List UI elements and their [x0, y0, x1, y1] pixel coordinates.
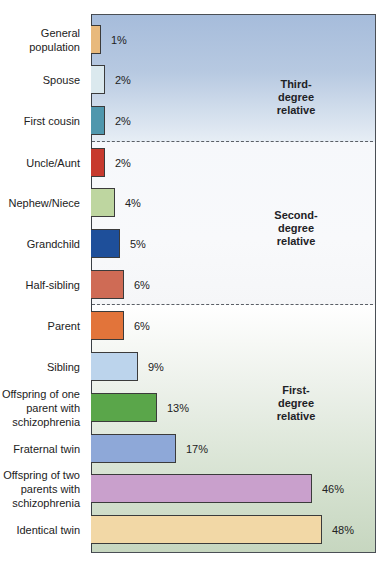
bar: [91, 393, 157, 422]
zone-label-line: degree: [241, 397, 351, 410]
category-label-line: Offspring of two: [0, 468, 80, 482]
value-label: 2%: [115, 156, 131, 170]
category-label: Offspring of oneparent withschizophrenia: [0, 387, 80, 429]
bar: [91, 106, 105, 135]
schizophrenia-risk-chart: Third- degree relative Second- degree re…: [0, 0, 390, 564]
category-label: Nephew/Niece: [0, 196, 80, 210]
value-label: 1%: [111, 33, 127, 47]
category-label: Offspring of twoparents withschizophreni…: [0, 468, 80, 510]
category-label-line: Uncle/Aunt: [0, 156, 80, 170]
value-label: 5%: [130, 237, 146, 251]
bar: [91, 188, 115, 217]
zone-label-line: Second-: [241, 209, 351, 222]
bar: [91, 352, 138, 381]
category-label-line: First cousin: [0, 114, 80, 128]
category-label-line: population: [0, 40, 80, 54]
category-label-line: schizophrenia: [0, 496, 80, 510]
value-label: 17%: [186, 442, 208, 456]
category-label: Generalpopulation: [0, 26, 80, 54]
bar: [91, 311, 124, 340]
category-label-line: parent with: [0, 401, 80, 415]
bar: [91, 474, 312, 503]
bar: [91, 229, 120, 258]
category-label-line: Parent: [0, 319, 80, 333]
category-label-line: General: [0, 26, 80, 40]
zone-label-line: First-: [241, 384, 351, 397]
category-label: Uncle/Aunt: [0, 156, 80, 170]
zone-label-third-degree: Third- degree relative: [241, 78, 351, 117]
bar: [91, 65, 105, 94]
zone-label-line: Third-: [241, 78, 351, 91]
bar: [91, 148, 105, 177]
zone-label-first-degree: First- degree relative: [241, 384, 351, 423]
value-label: 2%: [115, 114, 131, 128]
category-label: Identical twin: [0, 523, 80, 537]
category-label: Parent: [0, 319, 80, 333]
value-label: 48%: [332, 523, 354, 537]
bar: [91, 270, 124, 299]
category-label-line: Fraternal twin: [0, 442, 80, 456]
category-label-line: schizophrenia: [0, 415, 80, 429]
category-label-line: Identical twin: [0, 523, 80, 537]
category-label: Half-sibling: [0, 278, 80, 292]
category-label: Grandchild: [0, 237, 80, 251]
value-label: 6%: [134, 278, 150, 292]
value-label: 4%: [125, 196, 141, 210]
zone-label-line: degree: [241, 222, 351, 235]
category-label-line: parents with: [0, 482, 80, 496]
category-label: Fraternal twin: [0, 442, 80, 456]
category-label: Spouse: [0, 73, 80, 87]
category-label-line: Grandchild: [0, 237, 80, 251]
zone-label-second-degree: Second- degree relative: [241, 209, 351, 248]
value-label: 13%: [167, 401, 189, 415]
zone-label-line: relative: [241, 104, 351, 117]
category-label-line: Sibling: [0, 360, 80, 374]
category-label-line: Half-sibling: [0, 278, 80, 292]
zone-label-line: degree: [241, 91, 351, 104]
value-label: 46%: [322, 482, 344, 496]
value-label: 6%: [134, 319, 150, 333]
category-label-line: Offspring of one: [0, 387, 80, 401]
bar: [91, 25, 101, 54]
bar: [91, 515, 322, 544]
category-label: First cousin: [0, 114, 80, 128]
category-label-line: Spouse: [0, 73, 80, 87]
zone-label-line: relative: [241, 410, 351, 423]
zone-label-line: relative: [241, 235, 351, 248]
bar: [91, 434, 176, 463]
divider-second-first: [92, 304, 373, 305]
category-label-line: Nephew/Niece: [0, 196, 80, 210]
value-label: 2%: [115, 73, 131, 87]
divider-third-second: [92, 141, 373, 142]
value-label: 9%: [148, 360, 164, 374]
category-label: Sibling: [0, 360, 80, 374]
